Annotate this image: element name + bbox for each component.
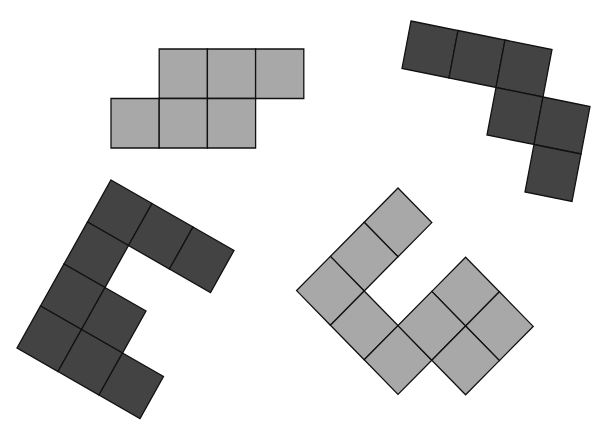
polyomino-figure xyxy=(0,0,610,447)
square-cell xyxy=(111,99,159,149)
square-cell xyxy=(449,31,505,88)
square-cell xyxy=(534,97,590,154)
square-cell xyxy=(159,49,207,99)
square-cell xyxy=(256,49,304,99)
square-cell xyxy=(402,21,458,78)
square-cell xyxy=(207,99,255,149)
square-cell xyxy=(159,99,207,149)
square-cell xyxy=(487,88,543,145)
square-cell xyxy=(496,40,552,97)
square-cell xyxy=(207,49,255,99)
square-cell xyxy=(525,145,581,202)
